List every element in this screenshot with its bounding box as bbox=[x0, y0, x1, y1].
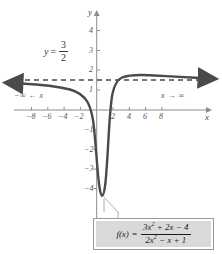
x-tick-label: 6 bbox=[143, 112, 147, 121]
function-formula: f(x) = 3x2 + 2x − 4 2x2 − x + 1 bbox=[116, 223, 190, 244]
x-tick-label: 8 bbox=[159, 112, 163, 121]
asymptote-numerator: 3 bbox=[59, 40, 68, 50]
x-tick-label: −6 bbox=[42, 112, 51, 121]
formula-numerator: 3x2 + 2x − 4 bbox=[141, 223, 191, 232]
left-limit-annotation: −∞ ← x bbox=[14, 91, 44, 100]
y-tick-label: 1 bbox=[89, 85, 93, 94]
x-tick-label: 4 bbox=[127, 112, 131, 121]
figure-canvas: −8 −6 −4 −2 2 4 6 8 4 3 2 1 −1 −2 −3 −4 … bbox=[0, 0, 222, 254]
y-tick-label: −4 bbox=[84, 184, 93, 193]
y-tick-label: −1 bbox=[84, 125, 93, 134]
x-tick-label: −2 bbox=[74, 112, 83, 121]
x-tick-label: −8 bbox=[26, 112, 35, 121]
function-curve-left-branch bbox=[21, 84, 102, 196]
asymptote-label-lhs: y bbox=[44, 46, 48, 57]
y-tick-label: 2 bbox=[89, 65, 93, 74]
y-tick-label: 3 bbox=[89, 46, 93, 55]
callout-leader-line bbox=[104, 197, 118, 219]
formula-fraction: 3x2 + 2x − 4 2x2 − x + 1 bbox=[141, 223, 191, 244]
right-limit-annotation: x → ∞ bbox=[161, 91, 185, 100]
y-tick-label: −3 bbox=[84, 164, 93, 173]
x-axis-name: x bbox=[205, 112, 209, 122]
function-curve-right-branch bbox=[102, 75, 200, 196]
asymptote-label-fraction: 3 2 bbox=[59, 40, 68, 63]
x-tick-label: 2 bbox=[111, 112, 115, 121]
formula-callout-box: f(x) = 3x2 + 2x − 4 2x2 − x + 1 bbox=[93, 218, 214, 250]
y-tick-label: −2 bbox=[84, 145, 93, 154]
y-tick-label: 4 bbox=[89, 26, 93, 35]
x-tick-label: −4 bbox=[58, 112, 67, 121]
formula-callout-fill: f(x) = 3x2 + 2x − 4 2x2 − x + 1 bbox=[96, 221, 211, 247]
asymptote-label: y = 3 2 bbox=[44, 40, 68, 63]
formula-equals: = bbox=[132, 229, 137, 239]
formula-function-name: f(x) bbox=[116, 229, 129, 239]
y-axis-name: y bbox=[88, 7, 92, 17]
asymptote-denominator: 2 bbox=[59, 53, 68, 63]
graph-plot-area bbox=[0, 0, 222, 254]
formula-denominator: 2x2 − x + 1 bbox=[143, 236, 188, 245]
asymptote-label-equals: = bbox=[50, 46, 56, 57]
